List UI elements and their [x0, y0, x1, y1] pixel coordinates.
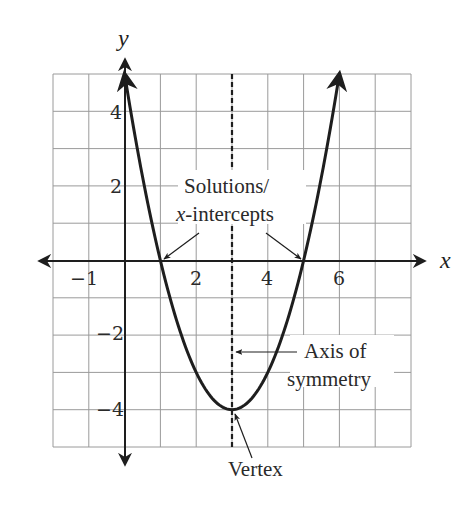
parabola-chart: y x −1 2 4 6 4 2 −2 −4 Solutions/ x-inte… [0, 0, 472, 508]
pointer-right-intercept [266, 233, 301, 259]
x-axis-label: x [439, 247, 451, 273]
tick-x-6: 6 [333, 267, 345, 289]
tick-y-neg4: −4 [96, 398, 124, 420]
axis-of-symmetry-label-1: Axis of [304, 339, 366, 363]
tick-x-2: 2 [190, 267, 202, 289]
tick-y-neg2: −2 [96, 322, 124, 344]
tick-x-neg1: −1 [70, 267, 98, 289]
pointer-vertex [235, 414, 252, 458]
pointer-left-intercept [164, 233, 199, 259]
tick-y-2: 2 [110, 175, 122, 197]
solutions-label: Solutions/ [184, 174, 269, 198]
vertex-label: Vertex [228, 457, 283, 481]
x-intercepts-label: x-intercepts [175, 202, 274, 226]
axis-of-symmetry-label-2: symmetry [287, 367, 371, 391]
tick-x-4: 4 [261, 267, 273, 289]
y-axis-label: y [116, 25, 129, 51]
tick-y-4: 4 [110, 101, 122, 123]
